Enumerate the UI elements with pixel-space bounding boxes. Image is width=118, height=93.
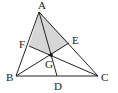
triangle-diagram: A B C D E F G (0, 0, 118, 93)
label-f: F (19, 38, 25, 50)
label-c: C (101, 71, 108, 83)
centroid-point-g (49, 53, 53, 57)
label-d: D (54, 80, 62, 92)
label-b: B (6, 71, 13, 83)
label-e: E (72, 34, 79, 46)
label-a: A (38, 0, 46, 11)
label-g: G (45, 58, 53, 70)
